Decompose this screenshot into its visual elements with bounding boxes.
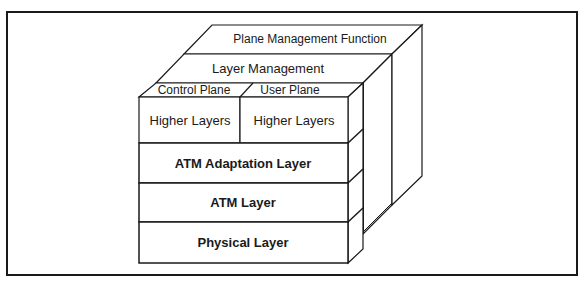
- stack-side-face: [348, 83, 363, 263]
- plane-management-label: Plane Management Function: [233, 32, 386, 46]
- layer-management-label: Layer Management: [212, 61, 324, 76]
- plane-management-side: [392, 25, 422, 205]
- atm-reference-model-diagram: Plane Management Function Layer Manageme…: [0, 0, 586, 285]
- control-plane-label: Control Plane: [158, 83, 231, 97]
- higher-layers-control-label: Higher Layers: [150, 113, 231, 128]
- physical-layer-label: Physical Layer: [197, 235, 288, 250]
- atm-layer-label: ATM Layer: [210, 195, 276, 210]
- aal-label: ATM Adaptation Layer: [175, 156, 312, 171]
- user-plane-label: User Plane: [260, 83, 320, 97]
- higher-layers-user-label: Higher Layers: [254, 113, 335, 128]
